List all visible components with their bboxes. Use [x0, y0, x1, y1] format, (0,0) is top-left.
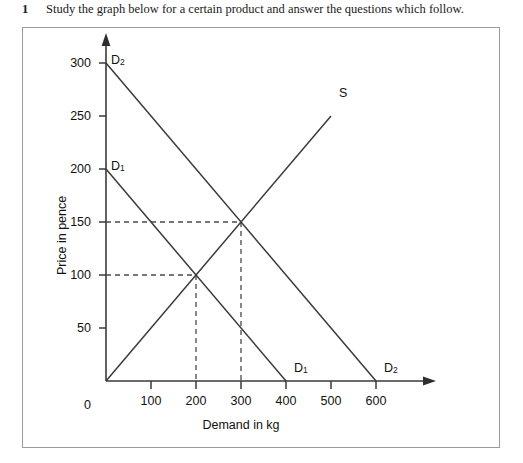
- curve-label-d2-end: D2: [384, 361, 398, 375]
- curve-label-d2-start-text: D: [111, 53, 120, 67]
- y-tick-label-250: 250: [43, 109, 91, 123]
- x-tick-label-300: 300: [219, 394, 263, 408]
- y-axis-title: Price in pence: [55, 165, 69, 275]
- x-tick-label-600: 600: [354, 394, 398, 408]
- question-line: 1 Study the graph below for a certain pr…: [22, 1, 512, 23]
- y-tick-label-300: 300: [43, 56, 91, 70]
- y-axis-ticks: [99, 63, 106, 328]
- curve-label-d2-end-sub: 2: [393, 365, 398, 375]
- curve-label-d2-end-text: D: [384, 361, 393, 375]
- x-axis-title: Demand in kg: [171, 418, 311, 432]
- x-tick-label-100: 100: [129, 394, 173, 408]
- x-axis-ticks: [151, 381, 376, 389]
- curve-label-d1-start: D1: [111, 159, 125, 173]
- x-tick-label-500: 500: [309, 394, 353, 408]
- figure-frame: 50 100 150 200 250 300 0 100 200 300 400…: [22, 27, 500, 448]
- x-tick-label-200: 200: [174, 394, 218, 408]
- question-number: 1: [22, 1, 46, 18]
- x-axis: [106, 377, 436, 386]
- curve-label-d1-start-sub: 1: [120, 163, 125, 173]
- curve-label-d2-start-sub: 2: [120, 57, 125, 67]
- curve-label-d1-end-text: D: [294, 361, 303, 375]
- question-text: Study the graph below for a certain prod…: [46, 1, 464, 18]
- chart-svg: [23, 28, 501, 449]
- origin-label: 0: [43, 398, 91, 412]
- x-tick-label-400: 400: [264, 394, 308, 408]
- curve-label-d2-start: D2: [111, 53, 125, 67]
- supply-demand-chart: 50 100 150 200 250 300 0 100 200 300 400…: [23, 28, 501, 449]
- curve-label-d1-end: D1: [294, 361, 308, 375]
- y-axis: [102, 33, 111, 381]
- curve-s: [106, 116, 331, 381]
- curve-label-d1-start-text: D: [111, 159, 120, 173]
- curve-label-s-end: S: [339, 86, 347, 100]
- curve-label-d1-end-sub: 1: [303, 365, 308, 375]
- y-tick-label-50: 50: [43, 321, 91, 335]
